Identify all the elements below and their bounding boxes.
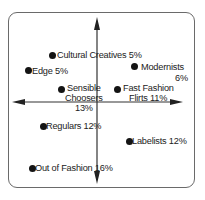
segment-label: Edge 5% [32,66,68,76]
segment-label-line2: Choosers [65,93,103,103]
segment-dot-icon [131,63,138,70]
segment-share: 13% [75,103,93,113]
arrow-left-icon [12,99,25,105]
arrow-up-icon [94,17,100,30]
segment-label: Modernists [141,62,184,72]
segment-label: Labelists 12% [132,136,187,146]
segment-dot-icon [58,86,65,93]
segment-label: Sensible [67,83,101,93]
segment-share: 6% [175,73,188,83]
segment-label-line2: Flirts 11% [129,93,167,103]
segment-label: Cultural Creatives 5% [57,50,142,60]
segment-label: Regulars 12% [46,121,101,131]
arrow-right-icon [170,99,183,105]
segment-dot-icon [49,52,56,59]
segment-dot-icon [25,67,32,74]
segment-label: Out of Fashion 16% [35,163,113,173]
segment-label: Fast Fashion [123,83,174,93]
segment-dot-icon [114,86,121,93]
